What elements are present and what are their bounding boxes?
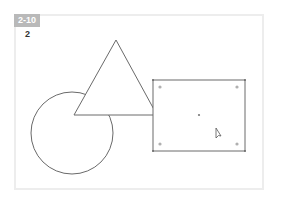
triangle-shape[interactable] — [74, 40, 157, 115]
drawing-canvas[interactable] — [0, 0, 281, 201]
